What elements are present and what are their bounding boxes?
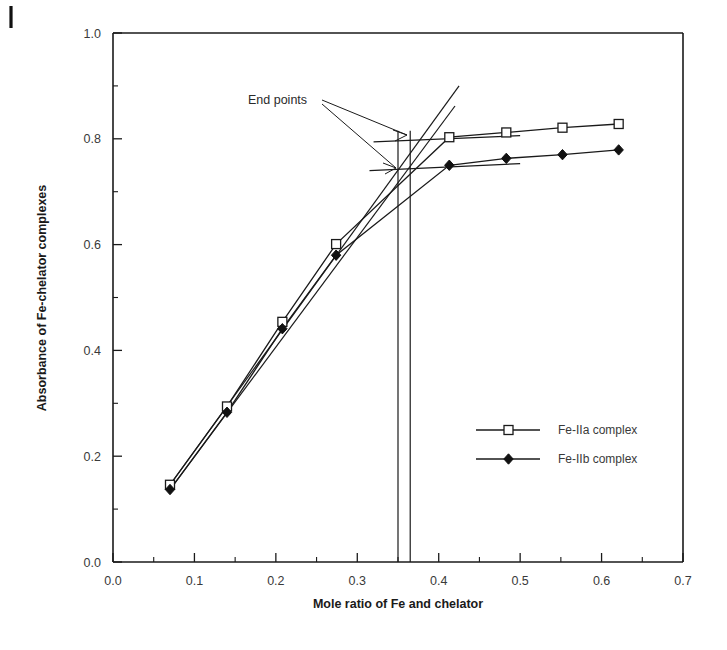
legend-marker-open-square-icon <box>504 426 513 435</box>
y-tick-label-0.8: 0.8 <box>84 132 101 146</box>
x-tick-label-0.7: 0.7 <box>674 574 691 588</box>
chart-figure: 0.00.10.20.30.40.50.60.7 0.00.20.40.60.8… <box>0 0 727 650</box>
y-tick-label-0.4: 0.4 <box>84 344 101 358</box>
y-tick-label-1.0: 1.0 <box>84 27 101 41</box>
y-tick-label-0.0: 0.0 <box>84 556 101 570</box>
x-tick-label-0.1: 0.1 <box>186 574 203 588</box>
x-tick-label-0.0: 0.0 <box>104 574 121 588</box>
end-points-label: End points <box>248 93 307 107</box>
x-tick-label-0.4: 0.4 <box>430 574 447 588</box>
x-tick-label-0.3: 0.3 <box>349 574 366 588</box>
data-point-open-square <box>445 133 454 142</box>
legend-label-fe-iib: Fe-IIb complex <box>558 452 637 466</box>
x-tick-label-0.6: 0.6 <box>593 574 610 588</box>
x-axis-title: Mole ratio of Fe and chelator <box>313 597 483 611</box>
chart-background <box>0 0 727 650</box>
y-tick-label-0.6: 0.6 <box>84 238 101 252</box>
x-tick-label-0.2: 0.2 <box>267 574 284 588</box>
y-tick-label-0.2: 0.2 <box>84 450 101 464</box>
data-point-open-square <box>614 119 623 128</box>
data-point-open-square <box>332 240 341 249</box>
x-tick-label-0.5: 0.5 <box>511 574 528 588</box>
legend-label-fe-iia: Fe-IIa complex <box>558 423 637 437</box>
data-point-open-square <box>502 128 511 137</box>
mole-ratio-chart-svg: 0.00.10.20.30.40.50.60.7 0.00.20.40.60.8… <box>0 0 727 650</box>
y-axis-title: Absorbance of Fe-chelator complexes <box>35 185 49 412</box>
data-point-open-square <box>558 123 567 132</box>
